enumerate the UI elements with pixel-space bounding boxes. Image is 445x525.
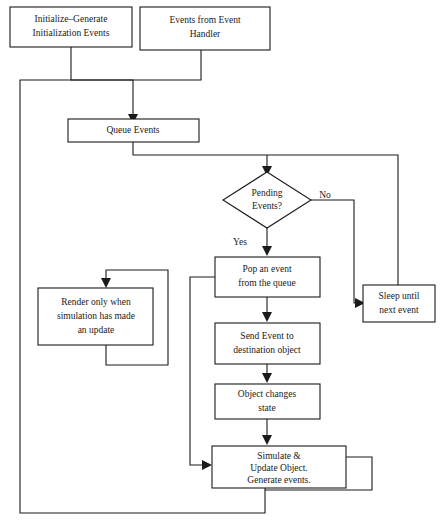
node-object-changes-state-line-1: Object changes: [238, 389, 297, 399]
node-pop-event-line-2: from the queue: [238, 278, 296, 288]
flowchart-canvas: Initialize–Generate Initialization Event…: [0, 0, 445, 525]
node-pending-events-line-2: Events?: [252, 201, 282, 211]
arrowhead-into-simulate-top: [262, 435, 272, 445]
arrowhead-into-render-top: [101, 278, 111, 288]
edge-pop-to-simulate: [190, 277, 215, 465]
arrowhead-into-simulate-left: [202, 460, 212, 470]
node-pop-event[interactable]: Pop an event from the queue: [215, 257, 320, 297]
node-initialize-line-2: Initialization Events: [33, 28, 110, 38]
node-render-only-line-1: Render only when: [61, 297, 131, 307]
edge-initialize-to-queue: [71, 47, 133, 120]
node-initialize[interactable]: Initialize–Generate Initialization Event…: [10, 7, 132, 47]
node-queue-events-label: Queue Events: [106, 125, 159, 135]
node-pending-events-diamond[interactable]: [223, 172, 311, 228]
node-events-from-handler-line-1: Events from Event: [169, 15, 241, 25]
node-send-event[interactable]: Send Event to destination object: [215, 323, 320, 364]
node-events-from-handler[interactable]: Events from Event Handler: [140, 7, 270, 50]
edge-label-no: No: [319, 190, 331, 200]
arrowhead-into-pop: [262, 246, 272, 256]
edge-handler-to-queue: [133, 50, 201, 80]
node-pending-events-decision[interactable]: Pending Events?: [223, 172, 311, 228]
node-render-only-line-3: an update: [78, 325, 115, 335]
node-render-only-line-2: simulation has made: [57, 311, 135, 321]
arrowhead-into-object: [262, 373, 272, 383]
node-simulate-update-line-1: Simulate &: [257, 451, 301, 461]
node-send-event-line-2: destination object: [233, 345, 301, 355]
edge-label-yes: Yes: [233, 237, 247, 247]
node-object-changes-state[interactable]: Object changes state: [215, 384, 320, 419]
node-sleep-line-1: Sleep until: [379, 291, 420, 301]
node-queue-events[interactable]: Queue Events: [68, 119, 199, 142]
node-simulate-update-line-2: Update Object.: [250, 463, 308, 473]
node-simulate-update-line-3: Generate events.: [247, 475, 310, 485]
node-initialize-box[interactable]: [10, 7, 132, 47]
node-sleep-line-2: next event: [379, 305, 419, 315]
node-send-event-box[interactable]: [215, 323, 320, 364]
node-pop-event-line-1: Pop an event: [242, 264, 291, 274]
node-sleep-until-next-event[interactable]: Sleep until next event: [363, 285, 435, 322]
node-object-changes-state-line-2: state: [258, 403, 275, 413]
node-render-only[interactable]: Render only when simulation has made an …: [38, 288, 153, 345]
flowchart-diagram: Initialize–Generate Initialization Event…: [0, 0, 445, 525]
node-send-event-line-1: Send Event to: [240, 331, 294, 341]
node-initialize-line-1: Initialize–Generate: [35, 14, 108, 24]
arrowhead-into-send: [262, 312, 272, 322]
node-events-from-handler-line-2: Handler: [190, 29, 221, 39]
node-pending-events-line-1: Pending: [251, 188, 282, 198]
node-pop-event-box[interactable]: [215, 257, 320, 297]
node-simulate-update[interactable]: Simulate & Update Object. Generate event…: [212, 446, 346, 488]
connector-layer: [20, 47, 398, 513]
